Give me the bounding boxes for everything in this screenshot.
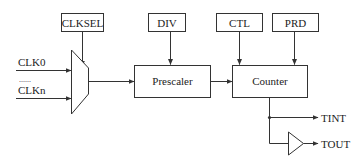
counter-label: Counter [252,75,288,87]
clksel-label: CLKSEL [62,17,104,29]
ctl-label: CTL [229,17,250,29]
timer-block-diagram: CLKSEL DIV CTL PRD CLK0 ...... CLKn Pres… [0,0,362,163]
ctl-box: CTL [217,14,263,32]
prd-label: PRD [285,17,306,29]
clock-mux [72,50,89,114]
clk0-label: CLK0 [18,56,46,68]
prescaler-block: Prescaler [135,66,211,98]
clksel-box: CLKSEL [62,14,104,32]
input-ellipsis: ...... [19,75,31,84]
div-label: DIV [157,17,177,29]
output-buffer [289,132,304,155]
counter-block: Counter [233,66,308,98]
prd-box: PRD [273,14,319,32]
tout-label: TOUT [321,138,350,150]
tint-label: TINT [321,112,346,124]
prescaler-label: Prescaler [152,75,193,87]
div-box: DIV [149,14,186,32]
clkn-label: CLKn [18,84,46,96]
